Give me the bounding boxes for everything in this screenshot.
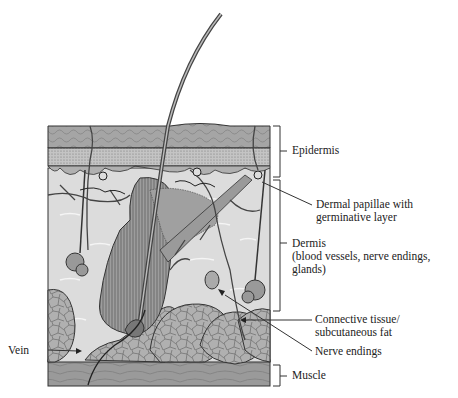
label-dermis: Dermis (blood vessels, nerve endings, gl… — [292, 237, 430, 276]
label-muscle: Muscle — [292, 369, 326, 382]
label-nerve-endings: Nerve endings — [315, 345, 382, 358]
nerve-ending-corpuscle — [205, 271, 219, 289]
label-epidermis: Epidermis — [292, 144, 339, 157]
label-connective-tissue: Connective tissue/ subcutaneous fat — [315, 313, 400, 339]
label-vein: Vein — [8, 344, 29, 357]
label-dermal-papillae: Dermal papillae with germinative layer — [316, 198, 413, 224]
epidermis-layer — [48, 124, 270, 175]
skin-cross-section-diagram: Epidermis Dermal papillae with germinati… — [0, 0, 458, 398]
